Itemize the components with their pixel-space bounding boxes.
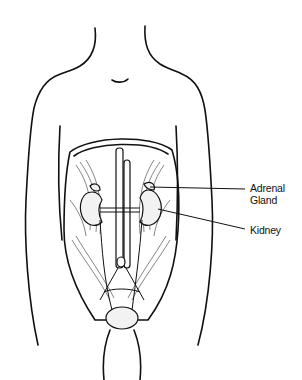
right-ureter xyxy=(132,220,142,310)
left-neck-outline xyxy=(26,28,96,345)
kidney-label: Kidney xyxy=(250,224,281,236)
adrenal-gland-label: Adrenal Gland xyxy=(250,182,300,206)
left-leg-inner xyxy=(103,330,110,380)
bladder xyxy=(106,307,138,329)
left-kidney xyxy=(80,192,102,225)
right-leg-inner xyxy=(134,330,141,380)
vena-cava xyxy=(124,160,130,268)
right-adrenal xyxy=(144,182,154,190)
right-kidney xyxy=(140,190,161,225)
adrenal-label-line1: Adrenal xyxy=(250,182,300,194)
left-arm-inner xyxy=(59,126,62,240)
sternal-notch xyxy=(112,79,128,82)
kidney-leader-line xyxy=(158,209,245,229)
left-adrenal xyxy=(90,184,100,191)
adrenal-label-line2: Gland xyxy=(250,194,300,206)
anatomy-diagram: Adrenal Gland Kidney xyxy=(0,0,302,380)
adrenal-leader-line xyxy=(150,187,245,189)
